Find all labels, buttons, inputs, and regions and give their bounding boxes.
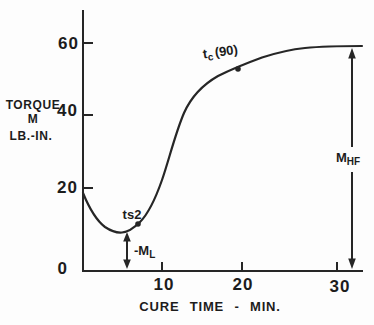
y-tick-label-20: 20 [57,179,78,196]
tc90-point [235,66,241,72]
x-tick-label-10: 10 [154,276,175,293]
y-tick-label-60: 60 [58,35,79,52]
ts2-label: ts2 [123,208,142,221]
x-tick-label-20: 20 [233,276,254,293]
ml-label: -ML [134,244,155,260]
y-axis-title-line1: TORQUE [6,99,61,111]
ts2-point [135,221,141,227]
ml-arrow [123,232,131,269]
torque-curve [83,46,362,233]
y-axis-title-line2: M [28,113,39,125]
x-axis-title: CURE TIME - MIN. [139,300,280,313]
plot-canvas [0,0,374,325]
cure-curve-figure: 60 40 20 0 10 20 30 TORQUE M LB.-IN. CUR… [0,0,374,325]
x-tick-label-30: 30 [330,278,351,295]
y-tick-label-0: 0 [58,260,68,277]
y-axis-title-line3: LB.-IN. [10,130,53,142]
mhf-label: MHF [336,151,360,167]
